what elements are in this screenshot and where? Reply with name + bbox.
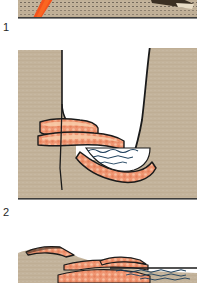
panel-baseline (18, 17, 197, 19)
panel-baseline (18, 198, 197, 200)
panel-2-illustration (0, 48, 197, 208)
panel-2 (0, 48, 197, 206)
lower-reef-lens (58, 270, 150, 283)
panel-3-illustration (0, 243, 197, 283)
panel-1-label: 1 (3, 22, 9, 33)
reef-stages-figure: 1 (0, 0, 197, 283)
panel-1 (0, 0, 197, 22)
panel-3 (0, 243, 197, 283)
panel-1-illustration (0, 0, 197, 22)
panel-2-label: 2 (3, 207, 9, 218)
